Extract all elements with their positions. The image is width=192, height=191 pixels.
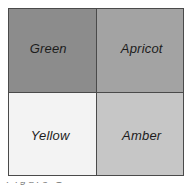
matrix-cell-top-right[interactable]: Apricot xyxy=(97,9,184,92)
colour-matrix-figure: Green Apricot Yellow Amber Figure 1 xyxy=(0,0,192,191)
matrix-cell-top-left[interactable]: Green xyxy=(9,9,96,92)
colour-matrix-grid: Green Apricot Yellow Amber xyxy=(8,8,184,176)
matrix-cell-label-yellow: Yellow xyxy=(31,129,70,142)
matrix-cell-label-apricot: Apricot xyxy=(121,42,163,55)
figure-caption-text: Figure 1 xyxy=(6,182,64,185)
matrix-cell-label-green: Green xyxy=(30,42,67,55)
figure-caption-clipped: Figure 1 xyxy=(0,182,192,191)
matrix-cell-label-amber: Amber xyxy=(122,129,161,142)
matrix-cell-bottom-left[interactable]: Yellow xyxy=(9,93,96,176)
matrix-cell-bottom-right[interactable]: Amber xyxy=(97,93,184,176)
